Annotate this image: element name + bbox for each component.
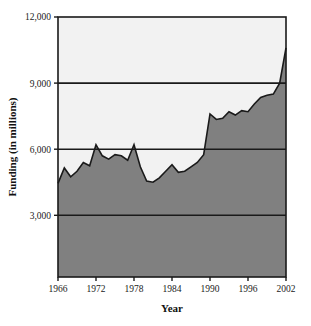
- x-axis-title: Year: [161, 302, 183, 314]
- x-axis-ticks: 1966197219781984199019962002: [49, 277, 296, 294]
- chart-canvas: 3,0006,0009,00012,000 196619721978198419…: [0, 0, 311, 326]
- x-tick-label-1990: 1990: [201, 284, 220, 294]
- x-tick-label-1972: 1972: [87, 284, 106, 294]
- x-tick-label-1984: 1984: [163, 284, 182, 294]
- y-tick-label-3000: 3,000: [30, 211, 52, 221]
- y-tick-label-9000: 9,000: [30, 79, 52, 89]
- y-axis-ticks: 3,0006,0009,00012,000: [25, 12, 58, 220]
- x-tick-label-1966: 1966: [49, 284, 68, 294]
- x-tick-label-1996: 1996: [239, 284, 258, 294]
- y-tick-label-6000: 6,000: [30, 145, 52, 155]
- x-tick-label-2002: 2002: [277, 284, 296, 294]
- y-tick-label-12000: 12,000: [25, 12, 51, 22]
- x-tick-label-1978: 1978: [125, 284, 144, 294]
- y-axis-title: Funding (in millions): [6, 97, 19, 196]
- funding-area-chart: 3,0006,0009,00012,000 196619721978198419…: [0, 0, 311, 326]
